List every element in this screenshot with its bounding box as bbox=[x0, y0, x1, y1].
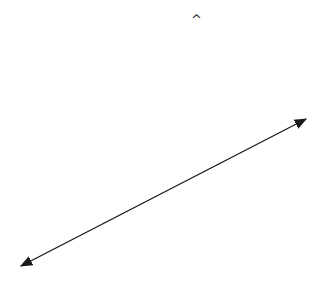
diagram-canvas: ^ bbox=[0, 0, 326, 287]
arrow-line bbox=[21, 119, 306, 266]
double-arrow-line bbox=[0, 0, 326, 287]
